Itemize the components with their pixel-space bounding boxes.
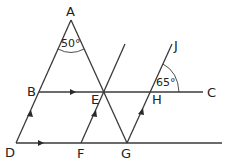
arrow-icon-FE <box>91 110 97 117</box>
label-A: A <box>66 4 75 19</box>
angle-label-H: 65° <box>156 76 176 89</box>
label-E: E <box>91 92 99 107</box>
angle-label-A: 50° <box>61 37 81 50</box>
label-C: C <box>207 85 216 100</box>
line-F-through-E <box>81 44 125 143</box>
label-J: J <box>173 38 178 53</box>
label-H: H <box>152 92 162 107</box>
arrow-icon-GH <box>138 108 144 115</box>
label-G: G <box>121 146 131 161</box>
arrow-icon-BE <box>70 89 76 95</box>
label-F: F <box>77 146 84 161</box>
label-B: B <box>27 84 36 99</box>
arrow-icon-DF <box>38 140 44 146</box>
line-GJ <box>127 44 172 143</box>
geometry-diagram: A B C D E F G H J 50° 65° <box>0 0 227 163</box>
label-D: D <box>5 145 15 160</box>
